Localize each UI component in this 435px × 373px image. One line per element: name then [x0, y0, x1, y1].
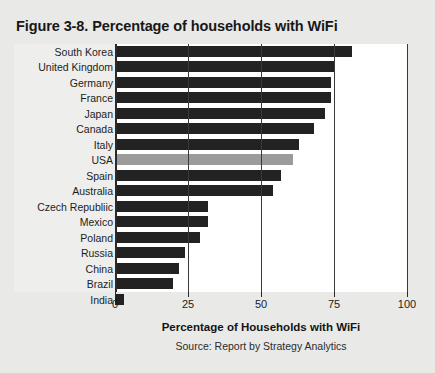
- bar-track: [115, 201, 407, 212]
- figure-container: Figure 3-8. Percentage of households wit…: [0, 0, 435, 373]
- bar-track: [115, 123, 407, 134]
- x-axis-title: Percentage of Households with WiFi: [115, 321, 407, 333]
- bar: [115, 232, 200, 243]
- bar: [115, 108, 325, 119]
- bar-row: Germany: [14, 75, 421, 91]
- bar-row: Poland: [14, 230, 421, 246]
- category-label: USA: [91, 154, 113, 166]
- bar: [115, 46, 352, 57]
- bar-row: Canada: [14, 122, 421, 138]
- bar-track: [115, 232, 407, 243]
- category-label: Czech Republiic: [37, 201, 113, 213]
- bar-rows: South KoreaUnited KingdomGermanyFranceJa…: [14, 44, 421, 292]
- bar-track: [115, 294, 407, 305]
- category-label: Russia: [81, 247, 113, 259]
- bar-row: Spain: [14, 168, 421, 184]
- bar-row: United Kingdom: [14, 60, 421, 76]
- bar-row: Mexico: [14, 215, 421, 231]
- bar-row: USA: [14, 153, 421, 169]
- bar-track: [115, 139, 407, 150]
- bar: [115, 247, 185, 258]
- bar: [115, 263, 179, 274]
- bar-track: [115, 77, 407, 88]
- bar-track: [115, 92, 407, 103]
- bar-track: [115, 61, 407, 72]
- bar-row: Russia: [14, 246, 421, 262]
- category-label: Brazil: [87, 278, 113, 290]
- bar-track: [115, 108, 407, 119]
- category-label: South Korea: [55, 46, 113, 58]
- bar: [115, 278, 173, 289]
- bar: [115, 170, 281, 181]
- category-label: China: [86, 263, 113, 275]
- category-label: Poland: [80, 232, 113, 244]
- source-note: Source: Report by Strategy Analytics: [115, 340, 407, 352]
- bar-row: South Korea: [14, 44, 421, 60]
- category-label: Spain: [86, 170, 113, 182]
- bar-row: Italy: [14, 137, 421, 153]
- category-label: France: [80, 92, 113, 104]
- bar-row: India: [14, 292, 421, 308]
- bar: [115, 201, 208, 212]
- bar: [115, 77, 331, 88]
- bar-row: Czech Republiic: [14, 199, 421, 215]
- category-label: United Kingdom: [38, 61, 113, 73]
- bar-chart: South KoreaUnited KingdomGermanyFranceJa…: [14, 44, 421, 299]
- category-label: Australia: [72, 185, 113, 197]
- bar-track: [115, 185, 407, 196]
- bar-track: [115, 247, 407, 258]
- bar-track: [115, 154, 407, 165]
- bar-track: [115, 170, 407, 181]
- bar-track: [115, 216, 407, 227]
- category-label: Japan: [84, 108, 113, 120]
- bar: [115, 154, 293, 165]
- bar: [115, 216, 208, 227]
- bar-row: Brazil: [14, 277, 421, 293]
- bar-row: Australia: [14, 184, 421, 200]
- category-label: Mexico: [80, 216, 113, 228]
- figure-title: Figure 3-8. Percentage of households wit…: [16, 18, 338, 34]
- bar-track: [115, 263, 407, 274]
- bar: [115, 123, 314, 134]
- bar: [115, 139, 299, 150]
- bar-row: France: [14, 91, 421, 107]
- category-label: India: [90, 294, 113, 306]
- bar-track: [115, 278, 407, 289]
- bar: [115, 294, 124, 305]
- category-label: Italy: [94, 139, 113, 151]
- bar: [115, 92, 331, 103]
- bar: [115, 61, 334, 72]
- category-label: Germany: [70, 77, 113, 89]
- bar-row: Japan: [14, 106, 421, 122]
- bar: [115, 185, 273, 196]
- bar-track: [115, 46, 407, 57]
- category-label: Canada: [76, 123, 113, 135]
- bar-row: China: [14, 261, 421, 277]
